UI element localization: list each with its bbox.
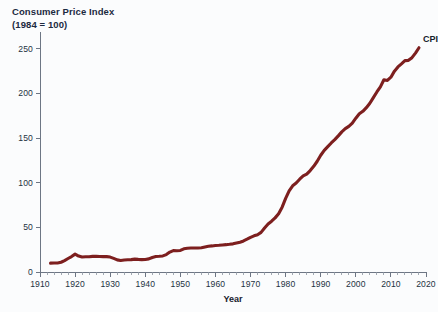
y-tick-label: 200 <box>0 88 33 98</box>
x-tick-label: 2020 <box>416 279 436 289</box>
x-tick-label: 1970 <box>241 279 261 289</box>
axes-group <box>36 32 426 277</box>
x-tick-label: 1930 <box>100 279 120 289</box>
cpi-data-line <box>51 48 419 263</box>
x-tick-label: 1960 <box>206 279 226 289</box>
y-tick-label: 0 <box>0 267 33 277</box>
x-tick-label: 2010 <box>381 279 401 289</box>
x-tick-label: 1920 <box>65 279 85 289</box>
x-tick-label: 1910 <box>30 279 50 289</box>
y-tick-label: 150 <box>0 133 33 143</box>
y-tick-label: 100 <box>0 178 33 188</box>
series-group <box>51 48 419 263</box>
x-tick-label: 1980 <box>276 279 296 289</box>
x-tick-label: 2000 <box>346 279 366 289</box>
y-tick-label: 250 <box>0 44 33 54</box>
x-tick-label: 1990 <box>311 279 331 289</box>
x-axis-title: Year <box>223 294 242 304</box>
y-tick-label: 50 <box>0 222 33 232</box>
x-tick-label: 1950 <box>171 279 191 289</box>
x-tick-label: 1940 <box>136 279 156 289</box>
series-label-cpi: CPI <box>423 34 438 44</box>
